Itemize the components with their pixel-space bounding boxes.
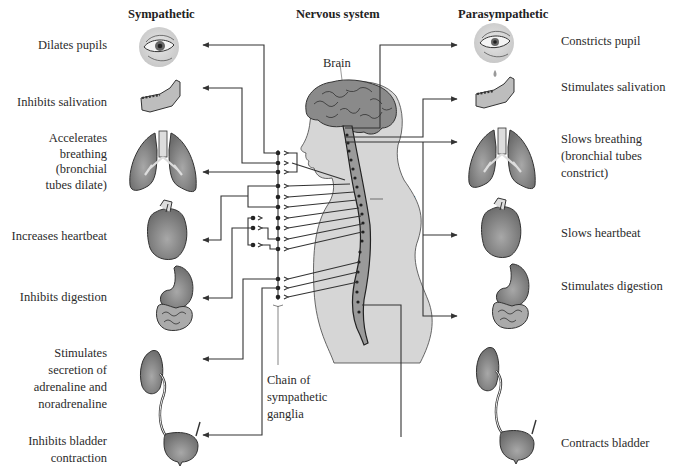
stomach-intestines-icon-parasympathetic	[492, 264, 528, 329]
bladder-icon-parasympathetic	[500, 420, 536, 464]
lungs-icon-parasympathetic	[469, 128, 535, 189]
stomach-intestines-icon-sympathetic	[156, 266, 192, 331]
adrenal-kidney-icon-sympathetic	[140, 351, 166, 437]
diagram-artwork	[0, 0, 677, 472]
saliva-drop-icon	[494, 70, 497, 77]
adrenal-kidney-icon-parasympathetic	[476, 348, 502, 434]
jaw-icon-sympathetic	[141, 80, 180, 112]
eye-icon-parasympathetic	[474, 23, 514, 77]
bladder-icon-sympathetic	[164, 422, 200, 466]
lungs-icon-sympathetic	[130, 131, 196, 192]
eye-icon-sympathetic	[139, 27, 179, 67]
heart-icon-sympathetic	[148, 200, 187, 260]
jaw-icon-parasympathetic	[476, 77, 514, 108]
heart-icon-parasympathetic	[482, 198, 521, 258]
